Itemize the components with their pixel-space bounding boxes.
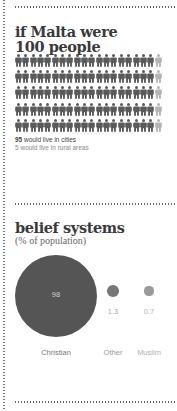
bubble-category-other: Other bbox=[104, 348, 123, 357]
bubble-value-muslim: 0.7 bbox=[144, 307, 154, 316]
bubble-other bbox=[107, 285, 119, 297]
bubble-category-muslim: Muslim bbox=[137, 348, 161, 357]
bubble-value-other: 1.3 bbox=[108, 307, 118, 316]
bubble-value-christian: 98 bbox=[52, 290, 60, 299]
bubble-muslim bbox=[144, 286, 153, 295]
belief-bubble-chart: 98Christian1.3Other0.7Muslim bbox=[0, 0, 177, 411]
bottom-dotted-separator bbox=[15, 401, 177, 403]
bubble-category-christian: Christian bbox=[41, 348, 71, 357]
